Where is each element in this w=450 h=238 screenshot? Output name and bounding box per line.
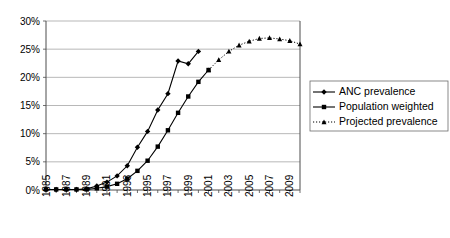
- x-tick-label: 1989: [81, 174, 92, 197]
- y-tick-label: 5%: [26, 156, 41, 167]
- x-tick-label: 1987: [61, 174, 72, 197]
- series-3: [206, 35, 302, 72]
- y-axis-tick-labels: 0%5%10%15%20%25%30%: [20, 16, 40, 196]
- x-tick-label: 1997: [162, 174, 173, 197]
- marker-square: [44, 187, 48, 191]
- x-tick-label: 1995: [142, 174, 153, 197]
- marker-square: [84, 187, 88, 191]
- legend-label: Population weighted: [339, 100, 434, 112]
- x-axis-tick-labels: 1985198719891991199319951997199920012003…: [41, 174, 296, 197]
- marker-square: [105, 184, 109, 188]
- marker-triangle: [287, 38, 292, 43]
- marker-diamond: [155, 107, 160, 112]
- x-tick-label: 2003: [223, 174, 234, 197]
- marker-square: [186, 94, 190, 98]
- x-tick-label: 1985: [41, 174, 52, 197]
- marker-square: [74, 187, 78, 191]
- y-tick-label: 20%: [20, 72, 40, 83]
- x-tick-label: 2001: [203, 174, 214, 197]
- legend-label: ANC prevalence: [339, 85, 416, 97]
- marker-triangle: [226, 49, 231, 54]
- marker-triangle: [216, 57, 221, 62]
- marker-square: [196, 80, 200, 84]
- marker-square: [176, 111, 180, 115]
- series-1: [43, 49, 201, 192]
- marker-diamond: [135, 144, 140, 149]
- y-tick-label: 10%: [20, 128, 40, 139]
- series-line: [46, 51, 198, 189]
- marker-diamond: [175, 58, 180, 63]
- marker-square: [125, 177, 129, 181]
- marker-square: [95, 186, 99, 190]
- marker-square: [54, 187, 58, 191]
- data-series-layer: [43, 35, 302, 192]
- x-tick-label: 2009: [284, 174, 295, 197]
- marker-square: [135, 169, 139, 173]
- series-line: [209, 38, 300, 70]
- y-tick-label: 15%: [20, 100, 40, 111]
- chart-container: 0%5%10%15%20%25%30% 19851987198919911993…: [0, 0, 450, 238]
- y-tick-label: 0%: [26, 185, 41, 196]
- marker-square: [156, 144, 160, 148]
- marker-diamond: [165, 91, 170, 96]
- y-tick-label: 30%: [20, 16, 40, 27]
- marker-square: [322, 105, 326, 109]
- axes: [43, 21, 300, 193]
- y-tick-label: 25%: [20, 44, 40, 55]
- marker-square: [166, 128, 170, 132]
- marker-triangle: [237, 43, 242, 48]
- x-tick-label: 2005: [244, 174, 255, 197]
- marker-square: [115, 182, 119, 186]
- marker-square: [64, 187, 68, 191]
- x-tick-label: 2007: [264, 174, 275, 197]
- marker-diamond: [145, 129, 150, 134]
- series-line: [46, 70, 209, 189]
- marker-square: [145, 159, 149, 163]
- x-tick-label: 1999: [183, 174, 194, 197]
- line-chart: 0%5%10%15%20%25%30% 19851987198919911993…: [0, 0, 450, 238]
- gridlines: [46, 21, 300, 162]
- marker-triangle: [298, 41, 303, 46]
- marker-triangle: [257, 36, 262, 41]
- legend-label: Projected prevalence: [339, 115, 438, 127]
- marker-triangle: [277, 36, 282, 41]
- series-2: [44, 68, 211, 192]
- chart-legend: ANC prevalencePopulation weightedProject…: [310, 81, 448, 131]
